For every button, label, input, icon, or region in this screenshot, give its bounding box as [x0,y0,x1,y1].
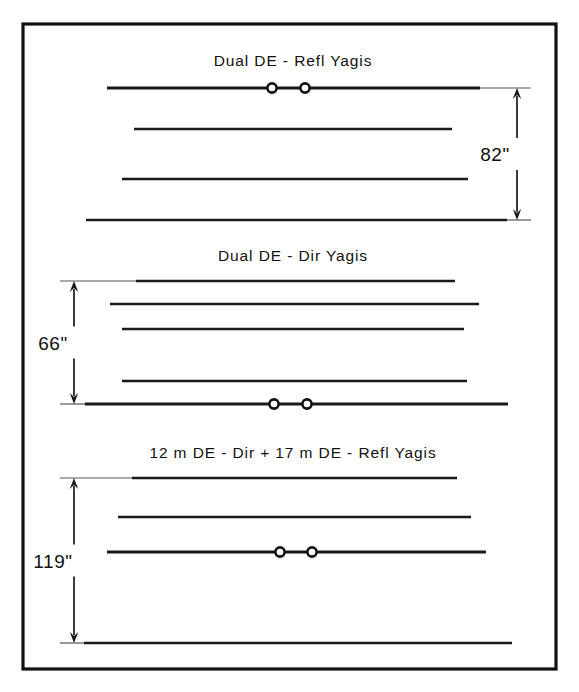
panel-dual-de-refl: Dual DE - Refl Yagis82" [86,52,531,220]
feedpoint-circle-1 [267,83,276,92]
feedpoint-circle-1 [269,399,278,408]
feedpoint-circle-2 [307,547,316,556]
feedpoint-circle-2 [302,399,311,408]
panel-title-2: 12 m DE - Dir + 17 m DE - Refl Yagis [149,444,436,461]
yagi-stacking-diagram: Dual DE - Refl Yagis82"Dual DE - Dir Yag… [0,0,579,692]
diagram-page: Dual DE - Refl Yagis82"Dual DE - Dir Yag… [0,0,579,692]
panel-dual-de-dir: Dual DE - Dir Yagis66" [38,247,508,409]
dimension-label-2: 119" [33,551,72,572]
panel-title-0: Dual DE - Refl Yagis [214,52,373,69]
feedpoint-circle-2 [300,83,309,92]
panel-title-1: Dual DE - Dir Yagis [218,247,368,264]
feedpoint-circle-1 [275,547,284,556]
dimension-label-1: 66" [38,333,68,354]
dimension-label-0: 82" [480,144,510,165]
panel-12m-dir-17m-refl: 12 m DE - Dir + 17 m DE - Refl Yagis119" [33,444,512,643]
diagram-frame-border [23,24,556,669]
